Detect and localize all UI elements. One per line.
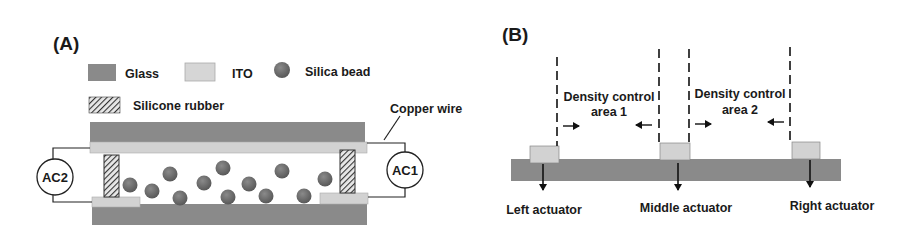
bottom-ito-right [320,193,368,204]
substrate-bar [511,159,841,181]
area1-label-line1: Density control [564,90,655,104]
figure-canvas: (A) Glass ITO Silica bead Silicone rubbe… [0,0,905,235]
panel-a: (A) Glass ITO Silica bead Silicone rubbe… [37,33,462,225]
middle-electrode [660,143,690,160]
area1-label-line2: area 1 [591,105,627,119]
ac2-wire-bottom [53,195,92,202]
ac1-wire-top [367,143,405,152]
legend-bead-label: Silica bead [305,65,370,79]
glass-swatch [88,64,116,81]
ac1-wire-bottom [368,188,405,197]
rubber-swatch [89,97,120,113]
left-spacer [104,155,119,197]
right-actuator-label: Right actuator [790,199,875,213]
left-electrode [530,146,559,163]
top-glass [90,122,365,142]
area2-label-line1: Density control [695,87,786,101]
bottom-ito-left [92,197,140,207]
panel-b-label: (B) [502,24,528,45]
legend-rubber-label: Silicone rubber [133,99,224,113]
panel-b: (B) Density control area 1 Density contr… [502,24,874,217]
panel-a-label: (A) [53,33,79,54]
inward-arrows [563,122,784,126]
bead-swatch-icon [274,62,290,78]
legend: Glass ITO Silica bead Silicone rubber [88,62,370,113]
ac1-label: AC1 [392,163,418,178]
area2-label-line2: area 2 [722,103,758,117]
copper-wire-leader [384,116,400,140]
ac2-label: AC2 [42,170,68,185]
middle-actuator-label: Middle actuator [640,201,733,215]
ito-swatch [185,63,215,81]
right-electrode [792,142,820,159]
legend-glass-label: Glass [125,67,159,81]
right-spacer [340,150,355,193]
silica-beads [123,161,333,206]
left-actuator-label: Left actuator [506,203,582,217]
copper-wire-label: Copper wire [390,102,462,116]
ac2-wire-top [53,148,90,160]
top-ito [90,142,367,153]
legend-ito-label: ITO [232,67,253,81]
